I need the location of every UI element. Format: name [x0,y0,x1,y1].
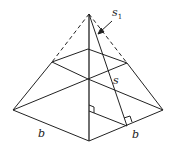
slant-height-line [89,14,127,126]
label-s1: s1 [112,7,122,21]
edge-left [13,62,52,110]
base-midline [89,111,127,126]
base-edge-front-left [13,110,89,141]
base-edge-back-left [13,79,88,110]
section-edge-3 [52,62,88,79]
section-edge-4 [88,63,127,79]
label-s: s [113,75,119,86]
pyramid-figure [0,0,173,148]
label-b-right: b [132,129,139,140]
label-b-left: b [38,128,45,139]
pyramid-diagram: s1 s b b [0,0,173,148]
